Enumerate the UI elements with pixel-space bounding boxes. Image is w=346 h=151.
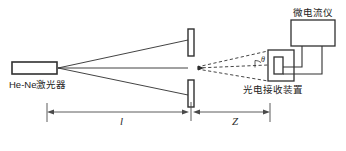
detector-window [274, 57, 283, 74]
diffracted-axis-ray [197, 65, 268, 68]
meter-box [291, 20, 335, 46]
dimension-label-l: l [120, 116, 123, 127]
incident-beam-group [58, 40, 188, 95]
micro-ammeter-label: 微电流仪 [293, 8, 333, 18]
laser-source [12, 62, 57, 74]
micro-ammeter [291, 20, 335, 46]
laser-body-rect [12, 62, 57, 74]
theta-angle-label: θ [261, 56, 265, 64]
dim-arrow-z-right [263, 110, 270, 115]
diffracted-ray-lower [197, 69, 268, 81]
diffracted-beam-group [197, 51, 268, 81]
detector-label: 光电接收装置 [243, 85, 303, 95]
figure-canvas [0, 0, 346, 151]
dim-arrow-l-right [182, 110, 189, 115]
dim-arrow-l-left [47, 110, 54, 115]
photo-detector [268, 50, 294, 81]
diffracted-ray-upper [197, 51, 268, 67]
upper-ray [58, 40, 188, 68]
optical-setup-figure: He-Ne激光器 光电接收装置 微电流仪 l Z θ [0, 0, 346, 151]
lower-ray [58, 68, 188, 95]
dim-arrow-z-left [193, 110, 200, 115]
slit-assembly [188, 29, 194, 107]
dimension-label-z: Z [232, 116, 238, 127]
slit-plate-upper [188, 29, 194, 56]
laser-source-label: He-Ne激光器 [9, 80, 66, 90]
